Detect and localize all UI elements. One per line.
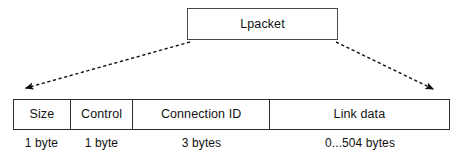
packet-size-caption-link-data: 0...504 bytes — [270, 133, 450, 153]
packet-field-size-label: Size — [30, 108, 55, 121]
packet-size-caption-size: 1 byte — [13, 133, 70, 153]
lpacket-block-label: Lpacket — [240, 18, 284, 31]
packet-size-caption-link-data-label: 0...504 bytes — [325, 137, 395, 149]
packet-field-connection-id-label: Connection ID — [161, 108, 242, 121]
packet-size-caption-connection-id-label: 3 bytes — [182, 137, 221, 149]
left-expansion-arrow — [26, 42, 190, 88]
packet-size-caption-size-label: 1 byte — [25, 137, 58, 149]
packet-field-connection-id: Connection ID — [133, 100, 269, 129]
right-expansion-arrow — [336, 42, 433, 89]
packet-field-link-data: Link data — [270, 100, 449, 129]
packet-field-link-data-label: Link data — [334, 108, 386, 121]
lpacket-structure-diagram: Lpacket Size Control Connection ID Link … — [0, 0, 463, 156]
lpacket-block: Lpacket — [187, 8, 338, 40]
packet-field-control-label: Control — [81, 108, 122, 121]
packet-field-row: Size Control Connection ID Link data — [13, 99, 450, 130]
packet-size-caption-control-label: 1 byte — [85, 137, 118, 149]
packet-size-caption-row: 1 byte 1 byte 3 bytes 0...504 bytes — [13, 133, 450, 153]
packet-field-control: Control — [71, 100, 134, 129]
packet-size-caption-control: 1 byte — [70, 133, 133, 153]
packet-size-caption-connection-id: 3 bytes — [133, 133, 270, 153]
packet-field-size: Size — [14, 100, 71, 129]
